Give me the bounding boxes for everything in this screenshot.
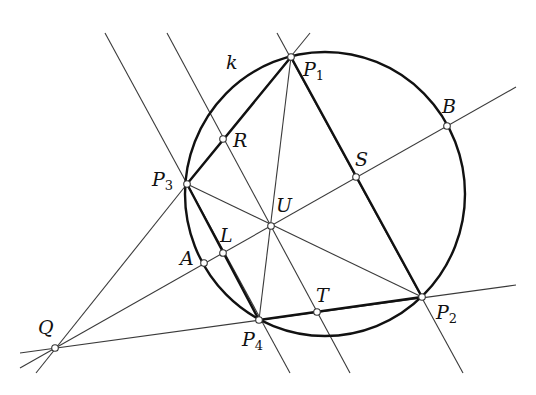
segment-p1-p3: [187, 57, 291, 184]
label-r: R: [233, 131, 247, 150]
construction-line: [259, 57, 291, 320]
circle-label: k: [226, 53, 238, 72]
point-p4: [256, 317, 263, 324]
label-s: S: [355, 150, 368, 169]
point-r: [220, 136, 227, 143]
label-p3: P3: [152, 170, 173, 192]
label-t: T: [316, 286, 329, 305]
point-b: [444, 123, 451, 130]
label-p2: P2: [436, 303, 457, 325]
label-p1: P1: [303, 60, 324, 82]
point-p1: [288, 54, 295, 61]
label-a: A: [180, 249, 194, 268]
label-u: U: [276, 196, 292, 215]
construction-line: [36, 184, 187, 373]
point-s: [353, 174, 360, 181]
geometry-figure: [0, 0, 536, 395]
point-u: [268, 223, 275, 230]
point-p2: [419, 294, 426, 301]
label-q: Q: [38, 318, 54, 337]
label-b: B: [442, 97, 456, 116]
point-l: [220, 250, 227, 257]
label-l: L: [220, 226, 233, 245]
point-q: [52, 345, 59, 352]
point-a: [201, 260, 208, 267]
diagram-canvas: k P1P2P3P4RSBULATQ: [0, 0, 536, 395]
point-t: [314, 309, 321, 316]
label-p4: P4: [242, 330, 263, 352]
point-p3: [184, 181, 191, 188]
